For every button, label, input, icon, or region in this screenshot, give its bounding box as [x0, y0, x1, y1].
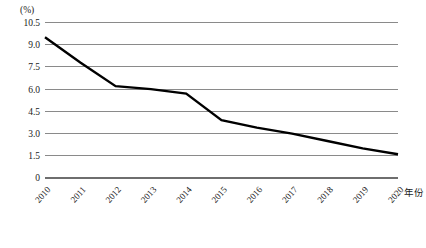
y-axis-unit-label: (%)	[20, 5, 34, 16]
ytick-label-4-5: 4.5	[28, 107, 40, 117]
ytick-label-0: 0	[35, 173, 40, 183]
line-chart-figure: (%) 10.5 9.0 7.5 6.0 4.5 3.0 1.5 0	[0, 0, 426, 248]
x-axis-title: 年份	[404, 187, 424, 198]
screenshot-root: (%) 10.5 9.0 7.5 6.0 4.5 3.0 1.5 0	[0, 0, 426, 248]
ytick-label-9-0: 9.0	[28, 40, 40, 50]
chart-background	[0, 0, 426, 248]
ytick-label-10-5: 10.5	[23, 18, 40, 28]
chart-canvas: (%) 10.5 9.0 7.5 6.0 4.5 3.0 1.5 0	[0, 0, 426, 248]
ytick-label-3-0: 3.0	[28, 129, 40, 139]
ytick-label-7-5: 7.5	[28, 62, 40, 72]
ytick-label-6-0: 6.0	[28, 85, 40, 95]
ytick-label-1-5: 1.5	[28, 151, 40, 161]
